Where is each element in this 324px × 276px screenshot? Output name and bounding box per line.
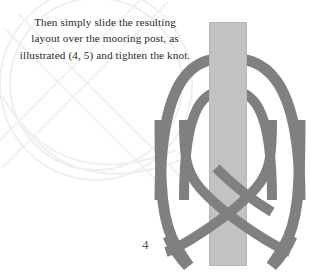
caption-line-1: Then simply slide the resulting [6, 14, 204, 30]
instruction-caption: Then simply slide the resulting layout o… [6, 14, 204, 63]
caption-line-3: illustrated (4, 5) and tighten the knot. [6, 47, 204, 63]
figure-number: 4 [142, 237, 149, 253]
page-canvas: Then simply slide the resulting layout o… [0, 0, 324, 276]
caption-line-2: layout over the mooring post, as [6, 30, 204, 46]
